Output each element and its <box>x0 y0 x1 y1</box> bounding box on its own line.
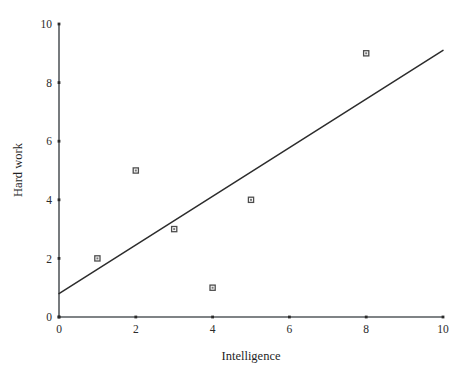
marker-core <box>135 170 137 172</box>
y-tick-mark <box>58 257 61 260</box>
marker-core <box>173 228 175 230</box>
marker-core <box>250 199 252 201</box>
data-point-marker <box>210 285 215 290</box>
y-axis-title: Hard work <box>11 142 25 197</box>
data-point-marker <box>95 256 100 261</box>
x-axis-title: Intelligence <box>222 349 281 363</box>
x-tick-mark <box>442 316 445 319</box>
x-tick-label: 10 <box>437 323 449 335</box>
y-tick-label: 2 <box>46 253 52 265</box>
y-tick-mark <box>58 316 61 319</box>
x-tick-mark <box>211 316 214 319</box>
x-tick-mark <box>134 316 137 319</box>
marker-core <box>96 257 98 259</box>
y-tick-mark <box>58 140 61 143</box>
x-tick-mark <box>365 316 368 319</box>
data-point-marker <box>364 51 369 56</box>
plot-canvas: 0246810 0246810 Intelligence Hard work <box>0 0 469 375</box>
data-point-marker <box>248 197 253 202</box>
y-tick-label: 10 <box>41 18 53 30</box>
y-tick-label: 4 <box>46 194 52 206</box>
x-tick-label: 6 <box>287 323 293 335</box>
y-tick-mark <box>58 198 61 201</box>
x-tick-label: 8 <box>363 323 369 335</box>
data-point-marker <box>172 227 177 232</box>
x-tick-label: 2 <box>133 323 139 335</box>
y-tick-mark <box>58 81 61 84</box>
marker-core <box>365 52 367 54</box>
x-tick-label: 0 <box>56 323 62 335</box>
x-axis-ticks: 0246810 <box>56 316 449 335</box>
regression-line <box>59 50 443 293</box>
y-tick-label: 6 <box>46 135 52 147</box>
x-tick-label: 4 <box>210 323 216 335</box>
y-tick-label: 8 <box>46 77 52 89</box>
y-axis-ticks: 0246810 <box>41 18 61 323</box>
axes <box>59 24 443 317</box>
data-points <box>95 51 369 291</box>
scatter-plot-figure: 0246810 0246810 Intelligence Hard work <box>0 0 469 375</box>
data-point-marker <box>133 168 138 173</box>
y-tick-label: 0 <box>46 311 52 323</box>
marker-core <box>212 287 214 289</box>
trend-line-segment <box>59 50 443 293</box>
y-tick-mark <box>58 23 61 26</box>
x-tick-mark <box>288 316 291 319</box>
